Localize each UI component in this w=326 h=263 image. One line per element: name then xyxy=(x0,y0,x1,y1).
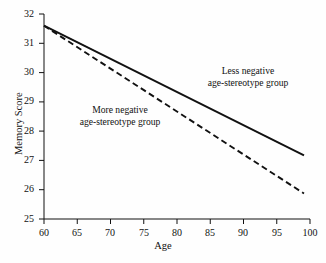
series-less-negative-line xyxy=(44,26,304,156)
y-tick-label-25: 25 xyxy=(12,214,34,224)
memory-score-line-chart: 32 31 30 29 28 27 26 25 60 65 70 75 80 8… xyxy=(0,0,326,263)
x-axis-title: Age xyxy=(0,240,326,251)
annotation-less-negative-line2: age-stereotype group xyxy=(186,77,310,89)
y-tick-label-31: 31 xyxy=(12,38,34,48)
y-tick-label-27: 27 xyxy=(12,155,34,165)
y-tick-label-26: 26 xyxy=(12,184,34,194)
x-tick-label-70: 70 xyxy=(98,228,122,238)
x-tick-label-65: 65 xyxy=(65,228,89,238)
y-axis-title: Memory Score xyxy=(13,92,24,155)
y-tick-marks xyxy=(39,14,44,219)
x-tick-marks xyxy=(44,219,310,224)
y-tick-label-30: 30 xyxy=(12,67,34,77)
x-tick-label-80: 80 xyxy=(165,228,189,238)
annotation-less-negative-group: Less negative age-stereotype group xyxy=(186,65,310,88)
annotation-more-negative-line2: age-stereotype group xyxy=(58,116,182,128)
x-tick-label-95: 95 xyxy=(265,228,289,238)
x-tick-label-75: 75 xyxy=(132,228,156,238)
annotation-more-negative-group: More negative age-stereotype group xyxy=(58,104,182,127)
annotation-less-negative-line1: Less negative xyxy=(186,65,310,77)
x-tick-label-85: 85 xyxy=(198,228,222,238)
plot-area xyxy=(0,0,326,263)
annotation-more-negative-line1: More negative xyxy=(58,104,182,116)
x-tick-label-100: 100 xyxy=(298,228,322,238)
x-tick-label-60: 60 xyxy=(32,228,56,238)
y-tick-label-32: 32 xyxy=(12,9,34,19)
x-tick-label-90: 90 xyxy=(231,228,255,238)
